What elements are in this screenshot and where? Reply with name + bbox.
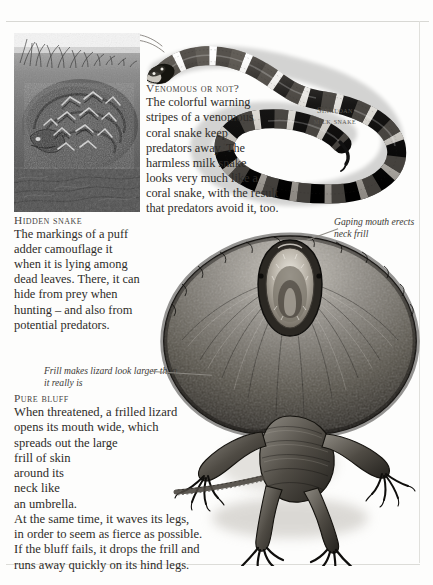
hidden-line-2: when it is lying among	[14, 257, 150, 272]
venomous-line-5: looks very much like a	[146, 171, 306, 186]
bluff-line-10: runs away quickly on its hind legs.	[14, 558, 239, 573]
bluff-line-8: in order to seem as fierce as possible.	[14, 527, 239, 542]
hidden-snake-text-block: Hidden snake The markings of a puff adde…	[14, 214, 150, 333]
page-canvas: Sinaloan milk snake	[0, 0, 433, 585]
hidden-line-5: hunting – and also from	[14, 303, 150, 318]
annotation-frill-size: Frill makes lizard look larger than it r…	[44, 365, 180, 390]
puff-adder-camouflage-photo	[14, 33, 140, 212]
bluff-line-9: If the bluff fails, it drops the frill a…	[14, 542, 239, 557]
pure-bluff-body: When threatened, a frilled lizard opens …	[14, 405, 239, 573]
venomous-text-block: Venomous or not? The colorful warning st…	[146, 82, 306, 217]
bluff-line-7: At the same time, it waves its legs,	[14, 512, 239, 527]
venomous-line-4: harmless milk snake	[146, 156, 306, 171]
bluff-line-4: around its	[14, 466, 239, 481]
hidden-line-1: adder camouflage it	[14, 242, 150, 257]
annotation-gaping-mouth: Gaping mouth erects neck frill	[334, 216, 430, 241]
bluff-line-6: an umbrella.	[14, 497, 239, 512]
hidden-line-0: The markings of a puff	[14, 227, 150, 242]
hidden-snake-heading: Hidden snake	[14, 214, 150, 227]
bluff-line-5: neck like	[14, 481, 239, 496]
bluff-line-3: frill of skin	[14, 451, 239, 466]
hidden-snake-body: The markings of a puff adder camouflage …	[14, 227, 150, 332]
pure-bluff-text-block: Pure bluff When threatened, a frilled li…	[14, 392, 239, 573]
pure-bluff-heading: Pure bluff	[14, 392, 239, 405]
bluff-line-2: spreads out the large	[14, 436, 239, 451]
venomous-line-1: stripes of a venomous	[146, 110, 306, 125]
hidden-line-3: dead leaves. There, it can	[14, 272, 150, 287]
venomous-line-0: The colorful warning	[146, 95, 306, 110]
snake-label-line2: milk snake	[314, 117, 356, 126]
venomous-line-6: coral snake, with the result	[146, 186, 306, 201]
venomous-line-2: coral snake keep	[146, 126, 306, 141]
venomous-line-3: predators away. The	[146, 141, 306, 156]
hidden-line-6: potential predators.	[14, 318, 150, 333]
bluff-line-0: When threatened, a frilled lizard	[14, 405, 239, 420]
venomous-line-7: that predators avoid it, too.	[146, 201, 306, 216]
venomous-heading: Venomous or not?	[146, 82, 306, 95]
snake-label-line1: Sinaloan	[317, 106, 353, 115]
bluff-line-1: opens its mouth wide, which	[14, 420, 239, 435]
snake-species-label: Sinaloan milk snake	[296, 106, 374, 127]
hidden-line-4: hide from prey when	[14, 287, 150, 302]
venomous-body: The colorful warning stripes of a venomo…	[146, 95, 306, 216]
